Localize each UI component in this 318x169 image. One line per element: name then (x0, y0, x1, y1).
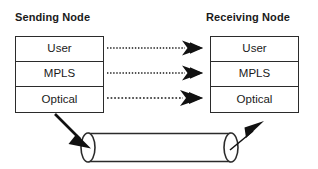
receiving-layer-user-label: User (242, 43, 266, 55)
sending-node-layer-stack: User MPLS Optical (15, 36, 104, 113)
receiving-layer-optical: Optical (211, 87, 298, 112)
receiving-node-layer-stack: User MPLS Optical (210, 36, 299, 113)
sending-layer-optical-label: Optical (42, 94, 78, 106)
protocol-stack-diagram: Sending Node Receiving Node User MPLS Op… (0, 0, 318, 169)
sending-layer-optical: Optical (16, 87, 103, 112)
sending-layer-mpls: MPLS (16, 62, 103, 87)
peer-flow-arrow-mpls (107, 64, 205, 82)
receiving-node-title: Receiving Node (206, 11, 290, 24)
sending-layer-user-label: User (47, 43, 71, 55)
peer-flow-arrow-user (107, 39, 205, 57)
egress-arrow-icon (230, 121, 264, 150)
sending-layer-mpls-label: MPLS (44, 68, 75, 80)
optical-fiber-cylinder (81, 133, 238, 162)
receiving-layer-mpls-label: MPLS (239, 68, 270, 80)
ingress-arrow-icon (55, 114, 91, 149)
sending-layer-user: User (16, 37, 103, 62)
peer-flow-arrow-optical (107, 89, 205, 107)
sending-node-title: Sending Node (15, 11, 90, 24)
receiving-layer-mpls: MPLS (211, 62, 298, 87)
receiving-layer-optical-label: Optical (237, 94, 273, 106)
receiving-layer-user: User (211, 37, 298, 62)
